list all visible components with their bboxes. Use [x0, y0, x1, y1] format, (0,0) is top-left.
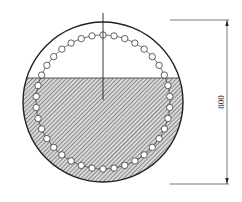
bead-circle	[167, 104, 173, 110]
bead-circle	[35, 82, 41, 88]
bead-circle	[89, 33, 95, 39]
bead-circle	[149, 144, 155, 150]
arrow-down-icon	[225, 178, 228, 184]
bead-circle	[156, 135, 162, 141]
bead-circle	[38, 126, 44, 132]
bead-circle	[44, 62, 50, 68]
bead-circle	[89, 165, 95, 171]
arrow-up-icon	[225, 20, 228, 26]
bead-circle	[111, 165, 117, 171]
bead-circle	[141, 152, 147, 158]
bead-circle	[68, 40, 74, 46]
bead-circle	[78, 162, 84, 168]
bead-circle	[51, 144, 57, 150]
bead-circle	[59, 46, 65, 52]
cross-section-drawing: 800	[0, 0, 242, 202]
bead-circle	[165, 82, 171, 88]
dimension-label: 800	[216, 95, 226, 109]
bead-circle	[35, 115, 41, 121]
bead-circle	[122, 162, 128, 168]
bead-circle	[132, 40, 138, 46]
bead-circle	[156, 62, 162, 68]
bead-circle	[44, 135, 50, 141]
bead-circle	[59, 152, 65, 158]
bead-circle	[51, 53, 57, 59]
bead-circle	[122, 35, 128, 41]
bead-circle	[165, 115, 171, 121]
bead-circle	[141, 46, 147, 52]
bead-circle	[100, 166, 106, 172]
bead-circle	[33, 93, 39, 99]
bead-circle	[33, 104, 39, 110]
bead-circle	[132, 158, 138, 164]
bead-circle	[111, 33, 117, 39]
bead-circle	[149, 53, 155, 59]
bead-circle	[167, 93, 173, 99]
bead-circle	[68, 158, 74, 164]
bead-circle	[161, 72, 167, 78]
bead-circle	[78, 35, 84, 41]
bead-circle	[161, 126, 167, 132]
bead-circle	[38, 72, 44, 78]
